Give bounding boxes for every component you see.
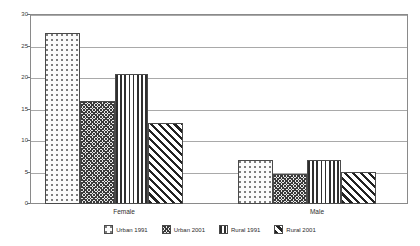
bar-chart: 30 25 20 15 10 5 0 Female Male Urban 199…: [0, 0, 420, 246]
xtick-label-female: Female: [84, 208, 164, 215]
ytick-label-15: 15: [6, 106, 28, 112]
ytick-label-5: 5: [6, 169, 28, 175]
legend-item-urban-2001[interactable]: Urban 2001: [162, 225, 205, 234]
xtick-label-male: Male: [277, 208, 357, 215]
ytick-label-10: 10: [6, 137, 28, 143]
ytick-label-0: 0: [6, 200, 28, 206]
bar-female-rural-1991[interactable]: [115, 74, 148, 204]
legend-item-rural-1991[interactable]: Rural 1991: [219, 225, 260, 234]
ytick-label-25: 25: [6, 43, 28, 49]
bar-female-urban-1991[interactable]: [45, 33, 80, 204]
legend-label-rural-2001: Rural 2001: [286, 227, 315, 233]
bar-male-rural-2001[interactable]: [341, 172, 376, 204]
legend-swatch-diagonal-icon: [274, 225, 283, 234]
bars-layer: [30, 14, 408, 204]
bar-male-urban-1991[interactable]: [238, 160, 273, 204]
legend-swatch-vlines-icon: [219, 225, 228, 234]
ytick-label-30: 30: [6, 11, 28, 17]
bar-female-rural-2001[interactable]: [148, 123, 183, 204]
legend-item-urban-1991[interactable]: Urban 1991: [104, 225, 147, 234]
legend-label-urban-1991: Urban 1991: [116, 227, 147, 233]
bar-male-rural-1991[interactable]: [307, 160, 341, 204]
legend-swatch-dots-icon: [104, 225, 113, 234]
bar-female-urban-2001[interactable]: [80, 101, 115, 204]
legend-label-urban-2001: Urban 2001: [174, 227, 205, 233]
chart-legend: Urban 1991 Urban 2001 Rural 1991 Rural 2…: [0, 225, 420, 234]
legend-swatch-crosshatch-icon: [162, 225, 171, 234]
bar-male-urban-2001[interactable]: [273, 174, 307, 204]
legend-item-rural-2001[interactable]: Rural 2001: [274, 225, 315, 234]
ytick-label-20: 20: [6, 74, 28, 80]
legend-label-rural-1991: Rural 1991: [231, 227, 260, 233]
